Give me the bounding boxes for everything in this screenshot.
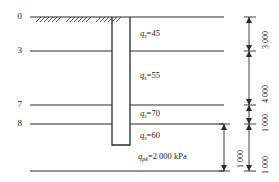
dimension-ticks-inner — [219, 124, 230, 171]
shaft-friction-label-layer-4: qs=60 — [140, 131, 160, 140]
depth-marker-7: 7 — [8, 100, 22, 109]
dimension-text-1000-lower: 1 000 — [262, 156, 270, 174]
qs-value-4: =60 — [147, 130, 160, 140]
dimension-text-3000: 3 000 — [262, 31, 270, 49]
depth-marker-0: 0 — [8, 12, 22, 21]
dimension-text-1000-inner: 1 000 — [237, 150, 245, 168]
ground-hatching — [36, 17, 121, 22]
pile-shaft — [112, 17, 130, 145]
qs-value-1: =45 — [147, 28, 160, 38]
qpk-subscript: pk — [142, 156, 148, 162]
shaft-friction-label-layer-1: qs=45 — [140, 29, 160, 38]
qs-subscript-4: s — [144, 135, 146, 141]
pile-foundation-diagram: 0 3 7 8 qs=45 qs=55 qs=70 qs=60 qpk=2 00… — [0, 0, 279, 182]
qs-subscript-2: s — [144, 75, 146, 81]
qpk-value: =2 000 kPa — [148, 151, 187, 161]
shaft-friction-label-layer-3: qs=70 — [140, 109, 160, 118]
qs-value-2: =55 — [147, 70, 160, 80]
qs-value-3: =70 — [147, 108, 160, 118]
end-bearing-capacity-label: qpk=2 000 kPa — [138, 152, 187, 161]
dimension-ticks-outer — [244, 17, 256, 171]
depth-marker-3: 3 — [8, 46, 22, 55]
dimension-text-1000-upper: 1 000 — [262, 114, 270, 132]
depth-marker-8: 8 — [8, 119, 22, 128]
qs-subscript-1: s — [144, 33, 146, 39]
qs-subscript-3: s — [144, 113, 146, 119]
shaft-friction-label-layer-2: qs=55 — [140, 71, 160, 80]
dimension-text-4000: 4 000 — [262, 85, 270, 103]
